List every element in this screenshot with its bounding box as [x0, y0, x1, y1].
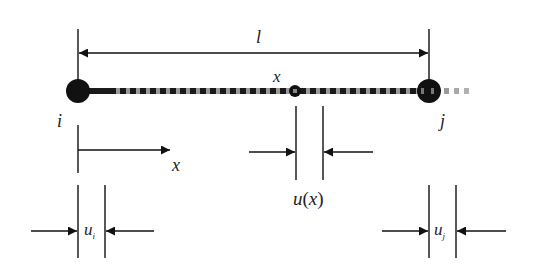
uj-label: uj — [434, 220, 446, 241]
node-j-label: j — [438, 111, 445, 131]
node-j-icon — [417, 79, 441, 103]
point-x-center — [293, 89, 297, 93]
node-i-icon — [66, 79, 90, 103]
point-x-label: x — [272, 67, 281, 86]
length-label: l — [256, 27, 261, 47]
bar-element-diagram: l x i j x u(x) — [0, 0, 536, 276]
displacement-ux: u(x) — [249, 106, 373, 210]
displacement-ui: ui — [31, 185, 154, 258]
beam-dashed-segment — [116, 88, 429, 94]
bar-element: x i j — [57, 67, 469, 131]
length-dimension: l — [78, 27, 429, 82]
ui-label: ui — [84, 220, 96, 241]
x-axis: x — [78, 125, 180, 175]
x-axis-label: x — [171, 155, 180, 175]
ux-label: u(x) — [293, 188, 324, 210]
displacement-uj: uj — [382, 185, 506, 258]
node-i-label: i — [57, 111, 62, 131]
